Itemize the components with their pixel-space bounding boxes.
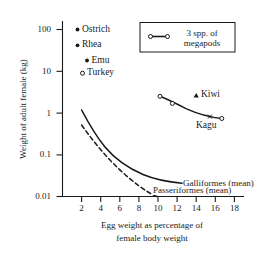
x-tick-label-4: 4: [98, 204, 104, 213]
megapod-point-2: [170, 101, 174, 105]
kagu-label: Kagu: [196, 121, 217, 131]
x-tick-label-14: 14: [191, 204, 202, 213]
x-tick-label-12: 12: [172, 204, 183, 213]
kiwi-label: Kiwi: [201, 90, 220, 100]
galliformes-mean-curve: [82, 110, 182, 183]
megapod-point-3: [220, 117, 224, 121]
x-axis-title-line2: female body weight: [62, 234, 242, 243]
emu-marker: [85, 59, 89, 63]
x-tick-label-2: 2: [79, 204, 85, 213]
x-axis-ticks: [82, 197, 235, 203]
chart-figure: 100 10 1 0.1 0.01 2 4 6 8 10 12 14 16 18…: [0, 0, 271, 256]
rhea-marker: [76, 43, 80, 47]
legend-label-line2: megapods: [173, 38, 231, 48]
rhea-label: Rhea: [82, 40, 102, 50]
x-tick-label-6: 6: [117, 204, 123, 213]
legend-label: 3 spp. of megapods: [173, 28, 231, 49]
x-tick-label-18: 18: [229, 204, 240, 213]
legend-label-line1: 3 spp. of: [173, 28, 231, 38]
x-tick-label-10: 10: [153, 204, 164, 213]
kiwi-marker: [194, 93, 199, 97]
passeriformes-label: Passeriformes (mean): [152, 186, 232, 195]
x-tick-label-8: 8: [136, 204, 142, 213]
megapod-trend-line: [160, 96, 222, 118]
ostrich-marker: [76, 28, 80, 32]
y-axis-title: Weight of adult female (kg): [18, 34, 28, 184]
y-tick-label-0.01: 0.01: [14, 192, 51, 201]
megapod-point-1: [158, 94, 162, 98]
y-tick-label-100: 100: [18, 25, 51, 34]
x-tick-label-16: 16: [210, 204, 221, 213]
turkey-label: Turkey: [87, 68, 114, 78]
x-axis-title-line1: Egg weight as percentage of: [62, 221, 242, 230]
y-axis-ticks: [57, 30, 63, 197]
turkey-marker: [81, 71, 85, 75]
emu-label: Emu: [92, 56, 110, 66]
ostrich-label: Ostrich: [82, 25, 110, 35]
